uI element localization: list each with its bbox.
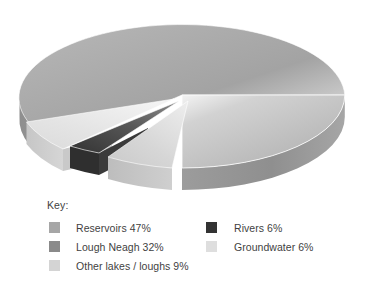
legend-label-other-lakes-loughs: Other lakes / loughs 9% [76, 260, 189, 272]
legend-column-right: Rivers 6% Groundwater 6% [206, 218, 314, 256]
legend-swatch-rivers [206, 222, 217, 233]
legend-item-rivers[interactable]: Rivers 6% [206, 218, 314, 237]
legend-item-lough-neagh[interactable]: Lough Neagh 32% [49, 237, 189, 256]
legend-swatch-groundwater [206, 241, 217, 252]
pie-chart [0, 0, 365, 195]
legend-title: Key: [47, 199, 68, 211]
pie-chart-svg [0, 0, 365, 195]
legend-item-groundwater[interactable]: Groundwater 6% [206, 237, 314, 256]
legend-label-lough-neagh: Lough Neagh 32% [76, 241, 164, 253]
legend-label-groundwater: Groundwater 6% [234, 241, 314, 253]
legend-label-rivers: Rivers 6% [234, 222, 282, 234]
legend-swatch-other-lakes-loughs [49, 260, 60, 271]
chart-legend: Key: Reservoirs 47% Lough Neagh 32% Othe… [0, 193, 365, 296]
legend-swatch-reservoirs [49, 222, 60, 233]
legend-column-left: Reservoirs 47% Lough Neagh 32% Other lak… [49, 218, 189, 275]
slice-top-lough-neagh [182, 95, 345, 168]
legend-item-other-lakes-loughs[interactable]: Other lakes / loughs 9% [49, 256, 189, 275]
legend-label-reservoirs: Reservoirs 47% [76, 222, 151, 234]
legend-item-reservoirs[interactable]: Reservoirs 47% [49, 218, 189, 237]
legend-swatch-lough-neagh [49, 241, 60, 252]
